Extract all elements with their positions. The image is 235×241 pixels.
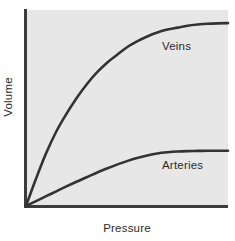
veins-series-label: Veins — [162, 40, 191, 52]
y-axis-line — [24, 9, 27, 208]
y-axis-title: Volume — [2, 67, 14, 127]
arteries-series-label: Arteries — [162, 159, 203, 171]
compliance-curve-figure: Veins Arteries Volume Pressure — [0, 0, 235, 241]
plot-area — [26, 10, 228, 206]
x-axis-line — [24, 205, 228, 208]
x-axis-title: Pressure — [26, 222, 228, 234]
